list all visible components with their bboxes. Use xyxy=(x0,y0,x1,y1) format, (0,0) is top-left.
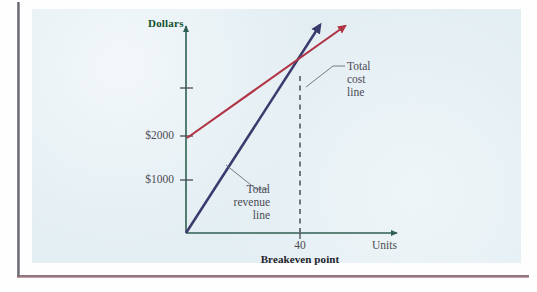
y-tick-label-1000: $1000 xyxy=(106,173,174,186)
x-axis-title: Units xyxy=(372,239,397,252)
breakeven-chart xyxy=(0,0,537,292)
total-revenue-line-callout: Total revenue line xyxy=(206,183,270,222)
total-revenue-callout-line-2: revenue xyxy=(206,196,270,209)
total-revenue-callout-line-3: line xyxy=(206,209,270,222)
total-cost-line-callout: Total cost line xyxy=(347,60,407,99)
total-cost-callout-line-3: line xyxy=(347,86,407,99)
y-axis-title: Dollars xyxy=(148,17,184,29)
total-cost-leader xyxy=(306,66,345,87)
total-cost-line xyxy=(187,26,345,138)
total-cost-callout-line-2: cost xyxy=(347,73,407,86)
scanned-page: Dollars $2000 $1000 40 Units Breakeven p… xyxy=(0,0,537,292)
total-revenue-callout-line-1: Total xyxy=(206,183,270,196)
y-tick-label-2000: $2000 xyxy=(106,129,174,142)
total-cost-callout-line-1: Total xyxy=(347,60,407,73)
x-tick-label-40: 40 xyxy=(280,239,320,252)
breakeven-caption: Breakeven point xyxy=(238,253,362,265)
